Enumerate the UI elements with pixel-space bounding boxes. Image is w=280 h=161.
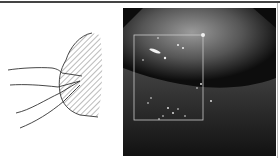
schematic-sketch — [0, 25, 110, 135]
top-rule — [0, 1, 280, 3]
photo-content — [123, 8, 276, 156]
grayscale-photo — [123, 8, 276, 156]
right-border — [277, 3, 278, 158]
hatched-region — [55, 30, 110, 125]
